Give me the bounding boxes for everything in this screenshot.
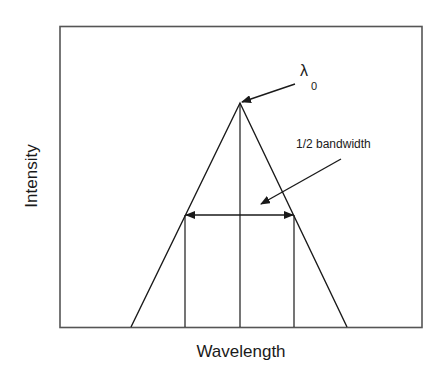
x-axis-label: Wavelength <box>0 342 440 362</box>
half-bandwidth-label: 1/2 bandwidth <box>296 137 371 151</box>
half-bandwidth-pointer-arrow <box>261 159 341 204</box>
peak-pointer-arrow <box>242 84 295 102</box>
peak-wavelength-subscript: 0 <box>311 80 317 92</box>
bandwidth-diagram <box>0 0 440 382</box>
plot-frame <box>60 27 422 328</box>
y-axis-label: Intensity <box>22 144 42 207</box>
peak-wavelength-symbol: λ <box>300 62 308 80</box>
